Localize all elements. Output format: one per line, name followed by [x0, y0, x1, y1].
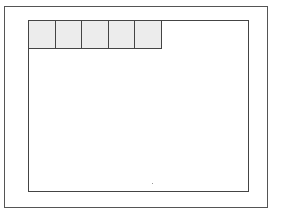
speck-mark	[152, 183, 153, 184]
header-cell-5	[134, 20, 162, 49]
header-cell-4	[108, 20, 136, 49]
header-cell-1	[28, 20, 56, 49]
header-cell-2	[55, 20, 83, 49]
header-cell-row	[28, 20, 162, 49]
header-cell-3	[81, 20, 109, 49]
